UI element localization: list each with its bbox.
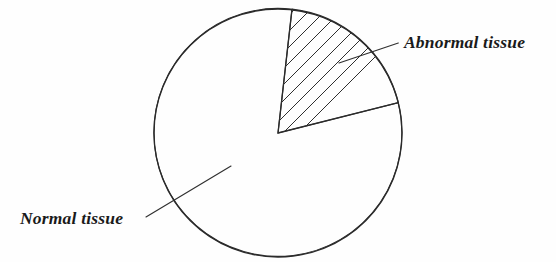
hatch-line bbox=[250, 10, 390, 150]
leader-line-abnormal-tissue bbox=[339, 43, 398, 63]
hatch-line bbox=[250, 10, 406, 166]
hatch-line bbox=[250, 10, 374, 134]
leader-line-normal-tissue bbox=[146, 166, 231, 217]
label-normal-tissue: Normal tissue bbox=[19, 208, 123, 228]
hatch-line bbox=[250, 10, 278, 38]
hatch-line bbox=[250, 10, 326, 86]
label-abnormal-tissue: Abnormal tissue bbox=[403, 32, 525, 52]
pie-diagram: Abnormal tissue Normal tissue bbox=[0, 0, 556, 262]
hatch-line bbox=[250, 10, 358, 118]
hatch-line bbox=[250, 10, 310, 70]
slice-abnormal-tissue-boundary bbox=[278, 9, 398, 133]
slice-abnormal-tissue bbox=[250, 9, 422, 182]
